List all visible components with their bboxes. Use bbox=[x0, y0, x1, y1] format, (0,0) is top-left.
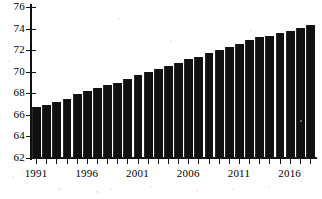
x-axis-tick bbox=[259, 159, 260, 164]
x-axis-tick bbox=[97, 159, 98, 164]
bar bbox=[265, 36, 274, 158]
y-axis-tick-label-wrap: 64 bbox=[0, 136, 25, 137]
x-axis-tick-label: 2006 bbox=[168, 167, 208, 179]
bar bbox=[164, 66, 173, 158]
bar-chart: 6264666870727476 19911996200120062011201… bbox=[0, 0, 322, 199]
bar bbox=[215, 50, 224, 158]
y-axis-tick-label-wrap: 72 bbox=[0, 50, 25, 51]
bar bbox=[42, 105, 51, 158]
bar bbox=[255, 37, 264, 158]
bar bbox=[103, 85, 112, 158]
bar bbox=[144, 72, 153, 158]
bar bbox=[174, 63, 183, 158]
x-axis-tick bbox=[87, 159, 88, 164]
scan-speckle bbox=[110, 188, 112, 190]
x-axis-tick bbox=[310, 159, 311, 164]
x-axis-tick-label: 1996 bbox=[67, 167, 107, 179]
x-axis-tick bbox=[290, 159, 291, 164]
x-axis-tick bbox=[269, 159, 270, 164]
scan-speckle bbox=[250, 30, 252, 32]
y-axis-tick-label-wrap: 62 bbox=[0, 158, 25, 159]
scan-speckle bbox=[170, 40, 172, 42]
y-axis-tick-label-wrap: 66 bbox=[0, 115, 25, 116]
bar bbox=[306, 25, 315, 158]
scan-speckle bbox=[300, 120, 302, 122]
x-axis-tick-label: 2001 bbox=[118, 167, 158, 179]
x-axis-tick bbox=[229, 159, 230, 164]
bar bbox=[83, 91, 92, 158]
scan-speckle bbox=[300, 180, 302, 182]
y-axis-tick-label: 76 bbox=[1, 1, 25, 12]
bar bbox=[286, 31, 295, 158]
y-axis-tick-label: 70 bbox=[1, 66, 25, 77]
x-axis-tick bbox=[117, 159, 118, 164]
bar bbox=[134, 75, 143, 158]
bar bbox=[184, 59, 193, 158]
bar bbox=[123, 79, 132, 158]
y-axis-tick-label: 74 bbox=[1, 23, 25, 34]
x-axis-tick bbox=[249, 159, 250, 164]
bar bbox=[205, 53, 214, 158]
scan-speckle bbox=[8, 60, 10, 62]
bar bbox=[113, 83, 122, 159]
x-axis-tick bbox=[158, 159, 159, 164]
x-axis-tick-label: 2011 bbox=[219, 167, 259, 179]
x-axis-tick bbox=[219, 159, 220, 164]
bar bbox=[32, 107, 41, 158]
x-axis-tick bbox=[300, 159, 301, 164]
x-axis-tick bbox=[46, 159, 47, 164]
y-axis-tick-label: 64 bbox=[1, 130, 25, 141]
scan-speckle bbox=[268, 186, 270, 188]
x-axis-tick-label: 1991 bbox=[16, 167, 56, 179]
y-axis-tick-label: 72 bbox=[1, 44, 25, 55]
scan-speckle bbox=[150, 186, 152, 188]
x-axis-tick bbox=[280, 159, 281, 164]
bar bbox=[296, 28, 305, 158]
x-axis-tick bbox=[188, 159, 189, 164]
bar bbox=[73, 94, 82, 158]
x-axis-tick bbox=[127, 159, 128, 164]
bar bbox=[235, 44, 244, 158]
x-axis-tick bbox=[209, 159, 210, 164]
x-axis-tick bbox=[36, 159, 37, 164]
x-axis-tick bbox=[168, 159, 169, 164]
x-axis-tick bbox=[138, 159, 139, 164]
y-axis-tick-label: 62 bbox=[1, 152, 25, 163]
bar bbox=[154, 69, 163, 158]
scan-speckle bbox=[96, 190, 99, 193]
bar bbox=[276, 33, 285, 158]
x-axis-tick bbox=[56, 159, 57, 164]
bar bbox=[93, 88, 102, 158]
x-axis-tick bbox=[107, 159, 108, 164]
scan-speckle bbox=[26, 182, 28, 184]
y-axis-tick-label-wrap: 70 bbox=[0, 72, 25, 73]
x-axis-tick bbox=[239, 159, 240, 164]
scan-speckle bbox=[232, 188, 234, 190]
x-axis-tick bbox=[77, 159, 78, 164]
x-axis-tick bbox=[178, 159, 179, 164]
x-axis-tick bbox=[148, 159, 149, 164]
y-axis-tick-label: 68 bbox=[1, 87, 25, 98]
y-axis-tick-label: 66 bbox=[1, 109, 25, 120]
bar bbox=[63, 99, 72, 158]
y-axis-tick-label-wrap: 74 bbox=[0, 29, 25, 30]
scan-speckle bbox=[12, 176, 14, 178]
y-axis-tick bbox=[26, 158, 36, 159]
bar bbox=[225, 47, 234, 158]
scan-speckle bbox=[58, 188, 61, 191]
x-axis-tick bbox=[67, 159, 68, 164]
x-axis-tick bbox=[198, 159, 199, 164]
y-axis-tick-label-wrap: 68 bbox=[0, 93, 25, 94]
bar bbox=[245, 40, 254, 158]
y-axis-tick-label-wrap: 76 bbox=[0, 7, 25, 8]
bar bbox=[194, 57, 203, 158]
bars-group bbox=[31, 4, 317, 158]
bar bbox=[52, 102, 61, 158]
scan-speckle bbox=[118, 18, 120, 20]
x-axis-tick-label: 2016 bbox=[270, 167, 310, 179]
scan-speckle bbox=[196, 190, 198, 192]
